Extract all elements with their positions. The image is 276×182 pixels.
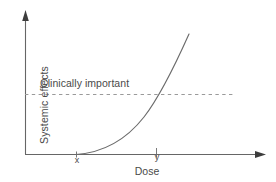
x-axis-arrow-icon (255, 151, 266, 158)
x-axis-label: Dose (117, 165, 177, 177)
chart-container: Systemic effects Dose Clinically importa… (0, 0, 276, 182)
x-tick-label-x: x (72, 155, 82, 165)
dose-response-curve (76, 34, 189, 155)
threshold-annotation-label: Clinically important (40, 77, 129, 89)
x-tick-label-y: y (152, 152, 162, 162)
y-axis-label: Systemic effects (38, 59, 50, 151)
y-axis-arrow-icon (22, 10, 29, 21)
